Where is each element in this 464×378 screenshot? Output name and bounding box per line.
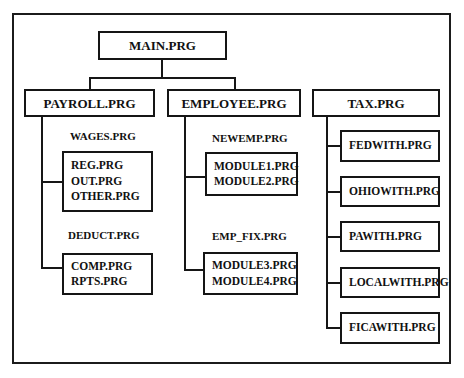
- connector-main-bus: [89, 77, 236, 79]
- node-ohiowith[interactable]: OHIOWITH.PRG: [340, 176, 440, 207]
- connector-payroll-to-deduct: [41, 267, 63, 269]
- node-wages-item-1: OUT.PRG: [71, 176, 151, 188]
- connector-main-drop: [161, 60, 163, 78]
- node-wages-item-2: OTHER.PRG: [71, 191, 151, 203]
- caption-newemp: NEWEMP.PRG: [212, 133, 288, 144]
- node-newemp-item-0: MODULE1.PRG: [214, 161, 296, 173]
- node-empfix-item-1: MODULE4.PRG: [212, 276, 296, 288]
- node-ficawith-label: FICAWITH.PRG: [349, 322, 438, 334]
- node-employee[interactable]: EMPLOYEE.PRG: [167, 89, 301, 117]
- node-deduct-group[interactable]: COMP.PRG RPTS.PRG: [62, 253, 153, 295]
- node-tax-label: TAX.PRG: [347, 97, 404, 110]
- node-payroll[interactable]: PAYROLL.PRG: [24, 89, 155, 117]
- connector-employee-spine: [184, 117, 186, 271]
- node-payroll-label: PAYROLL.PRG: [43, 97, 135, 110]
- caption-wages: WAGES.PRG: [70, 131, 136, 142]
- node-fedwith-label: FEDWITH.PRG: [349, 140, 438, 152]
- node-empfix-item-0: MODULE3.PRG: [212, 260, 296, 272]
- node-localwith[interactable]: LOCALWITH.PRG: [340, 267, 440, 298]
- node-wages-group[interactable]: REG.PRG OUT.PRG OTHER.PRG: [62, 151, 153, 212]
- node-deduct-item-0: COMP.PRG: [71, 261, 151, 273]
- connector-tax-to-ficawith: [326, 327, 341, 329]
- node-deduct-item-1: RPTS.PRG: [71, 276, 151, 288]
- caption-empfix: EMP_FIX.PRG: [212, 231, 287, 242]
- node-newemp-group[interactable]: MODULE1.PRG MODULE2.PRG: [205, 152, 298, 196]
- node-pawith-label: PAWITH.PRG: [349, 231, 438, 243]
- connector-tax-to-localwith: [326, 282, 341, 284]
- connector-tax-spine: [326, 117, 328, 329]
- connector-employee-to-newemp: [184, 176, 206, 178]
- node-ohiowith-label: OHIOWITH.PRG: [349, 186, 438, 198]
- node-pawith[interactable]: PAWITH.PRG: [340, 221, 440, 252]
- node-localwith-label: LOCALWITH.PRG: [349, 277, 438, 289]
- connector-payroll-to-wages: [41, 181, 63, 183]
- caption-deduct: DEDUCT.PRG: [68, 230, 140, 241]
- node-main[interactable]: MAIN.PRG: [98, 31, 227, 60]
- node-newemp-item-1: MODULE2.PRG: [214, 176, 296, 188]
- connector-tax-to-pawith: [326, 236, 341, 238]
- connector-employee-to-empfix: [184, 269, 204, 271]
- node-wages-item-0: REG.PRG: [71, 160, 151, 172]
- node-tax[interactable]: TAX.PRG: [312, 89, 440, 117]
- node-fedwith[interactable]: FEDWITH.PRG: [340, 130, 440, 162]
- connector-payroll-spine: [41, 117, 43, 269]
- connector-tax-to-fedwith: [326, 145, 341, 147]
- connector-tax-to-ohiowith: [326, 191, 341, 193]
- node-ficawith[interactable]: FICAWITH.PRG: [340, 312, 440, 344]
- node-empfix-group[interactable]: MODULE3.PRG MODULE4.PRG: [203, 252, 298, 295]
- node-main-label: MAIN.PRG: [129, 39, 196, 52]
- node-employee-label: EMPLOYEE.PRG: [181, 97, 286, 110]
- diagram-canvas: MAIN.PRG PAYROLL.PRG EMPLOYEE.PRG TAX.PR…: [0, 0, 464, 378]
